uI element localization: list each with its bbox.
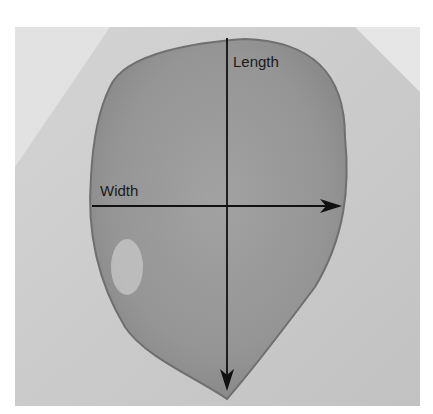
wound-photo: Length Width: [15, 27, 420, 406]
length-label: Length: [233, 53, 279, 70]
width-label: Width: [100, 182, 138, 199]
slough-patch: [111, 239, 143, 295]
wound-illustration: [15, 27, 420, 406]
